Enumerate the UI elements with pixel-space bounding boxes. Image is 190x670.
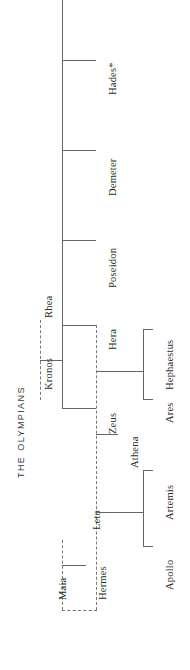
node-label-apollo: Apollo	[165, 560, 176, 590]
child-stem-hermes	[62, 565, 86, 566]
node-label-rhea: Rhea	[44, 296, 55, 318]
marriage-stem-zeus-maia	[62, 610, 97, 611]
sibling-bar-zeus-leto-children	[143, 470, 144, 546]
node-label-hephaestus: Hephaestus	[165, 340, 176, 390]
node-label-athena: Athena	[130, 436, 141, 468]
node-label-poseidon: Poseidon	[108, 248, 119, 288]
child-stem-ares	[143, 399, 153, 400]
child-stem-artemis	[143, 470, 153, 471]
sibling-bar-kronos-children	[62, 0, 63, 408]
node-label-ares: Ares	[165, 402, 176, 423]
node-label-zeus: Zeus	[108, 413, 119, 434]
child-stem-hera	[62, 325, 96, 326]
node-label-hera: Hera	[108, 329, 119, 350]
node-label-hades: Hades*	[108, 62, 119, 95]
couple-stem-zeus-hera	[96, 371, 143, 372]
page-title: The Olympians	[12, 298, 27, 478]
child-stem-athena	[96, 434, 118, 435]
child-stem-hades	[62, 60, 96, 61]
child-stem-hephaestus	[143, 329, 153, 330]
olympians-family-tree: The Olympians Kronos Rhea Hades* Demeter…	[0, 0, 190, 670]
child-stem-demeter	[62, 150, 96, 151]
child-stem-zeus	[62, 408, 96, 409]
sibling-bar-zeus-hera-children	[143, 329, 144, 399]
node-label-hermes: Hermes	[98, 566, 109, 600]
node-label-artemis: Artemis	[165, 485, 176, 520]
child-stem-apollo	[143, 546, 153, 547]
couple-stem-kronos-rhea	[40, 360, 62, 361]
node-label-kronos: Kronos	[44, 358, 55, 390]
node-label-maia: Maia	[58, 578, 69, 600]
node-label-demeter: Demeter	[108, 158, 119, 196]
child-stem-poseidon	[62, 240, 96, 241]
couple-stem-zeus-leto	[96, 512, 143, 513]
